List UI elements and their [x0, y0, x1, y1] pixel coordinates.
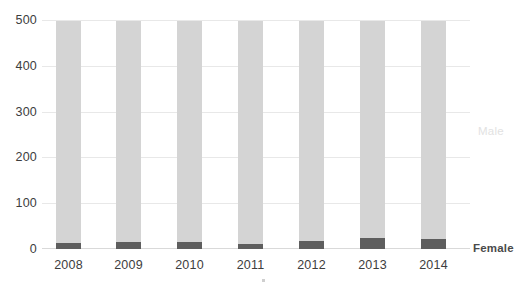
bar-segment-female-2008[interactable]: [56, 243, 81, 249]
x-tick-label-2010: 2010: [167, 259, 212, 272]
bottom-artifact-mark: [262, 279, 265, 282]
bar-segment-female-2010[interactable]: [177, 242, 202, 249]
bar-segment-female-2013[interactable]: [360, 238, 385, 249]
bar-segment-male-2013[interactable]: [360, 21, 385, 238]
bar-segment-male-2011[interactable]: [238, 21, 263, 244]
bar-segment-female-2012[interactable]: [299, 241, 324, 249]
y-tick-label-200: 200: [0, 151, 37, 164]
bar-segment-female-2014[interactable]: [421, 239, 446, 249]
plot-area: [42, 20, 470, 249]
bar-segment-male-2012[interactable]: [299, 21, 324, 241]
x-tick-label-2009: 2009: [106, 259, 151, 272]
series-label-female: Female: [473, 243, 514, 255]
y-tick-label-0: 0: [0, 243, 37, 256]
series-label-male: Male: [478, 126, 504, 138]
x-tick-label-2014: 2014: [411, 259, 456, 272]
stacked-bar-chart: 500 400 300 200 100 0 2008 2009 2010 201…: [0, 0, 525, 286]
y-tick-label-100: 100: [0, 197, 37, 210]
x-tick-label-2013: 2013: [350, 259, 395, 272]
bar-segment-female-2011[interactable]: [238, 244, 263, 249]
bar-segment-male-2008[interactable]: [56, 21, 81, 243]
y-tick-label-300: 300: [0, 106, 37, 119]
y-axis: 500 400 300 200 100 0: [0, 0, 37, 286]
bar-segment-female-2009[interactable]: [116, 242, 141, 249]
y-tick-label-400: 400: [0, 60, 37, 73]
x-axis: 2008 2009 2010 2011 2012 2013 2014: [42, 259, 470, 279]
x-tick-label-2011: 2011: [228, 259, 273, 272]
bar-segment-male-2009[interactable]: [116, 21, 141, 242]
y-tick-label-500: 500: [0, 14, 37, 27]
bar-segment-male-2010[interactable]: [177, 21, 202, 242]
x-tick-label-2012: 2012: [289, 259, 334, 272]
bar-segment-male-2014[interactable]: [421, 21, 446, 239]
x-tick-label-2008: 2008: [46, 259, 91, 272]
